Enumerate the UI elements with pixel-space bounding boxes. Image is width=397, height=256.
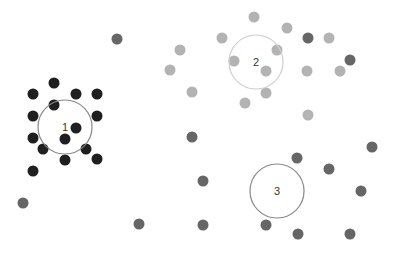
centroid-1: 1 bbox=[38, 100, 92, 154]
data-point bbox=[249, 12, 260, 23]
data-point bbox=[293, 229, 304, 240]
data-point bbox=[81, 144, 92, 155]
data-point bbox=[38, 144, 49, 155]
data-point bbox=[261, 88, 272, 99]
data-point bbox=[60, 134, 71, 145]
data-point bbox=[324, 33, 335, 44]
data-point bbox=[240, 98, 251, 109]
data-point bbox=[261, 66, 272, 77]
data-point bbox=[345, 55, 356, 66]
data-point bbox=[165, 65, 176, 76]
data-point bbox=[60, 155, 71, 166]
data-point bbox=[187, 132, 198, 143]
data-point bbox=[71, 89, 82, 100]
data-point bbox=[356, 186, 367, 197]
cluster-diagram: 123 bbox=[0, 0, 397, 256]
data-point bbox=[303, 110, 314, 121]
cluster-3 bbox=[18, 33, 378, 240]
data-point bbox=[345, 229, 356, 240]
data-point bbox=[303, 33, 314, 44]
data-point bbox=[92, 89, 103, 100]
data-points bbox=[18, 12, 378, 240]
data-point bbox=[261, 220, 272, 231]
data-point bbox=[28, 166, 39, 177]
data-point bbox=[28, 133, 39, 144]
data-point bbox=[18, 198, 29, 209]
data-point bbox=[92, 154, 103, 165]
data-point bbox=[28, 89, 39, 100]
data-point bbox=[229, 56, 240, 67]
data-point bbox=[302, 66, 313, 77]
data-point bbox=[335, 66, 346, 77]
data-point bbox=[198, 176, 209, 187]
data-point bbox=[134, 219, 145, 230]
centroid-label: 3 bbox=[274, 185, 280, 197]
data-point bbox=[175, 45, 186, 56]
data-point bbox=[112, 34, 123, 45]
data-point bbox=[367, 142, 378, 153]
data-point bbox=[187, 87, 198, 98]
data-point bbox=[282, 23, 293, 34]
data-point bbox=[28, 111, 39, 122]
centroid-label: 2 bbox=[253, 56, 259, 68]
data-point bbox=[198, 220, 209, 231]
data-point bbox=[324, 164, 335, 175]
data-point bbox=[71, 123, 82, 134]
data-point bbox=[92, 111, 103, 122]
centroid-3: 3 bbox=[250, 164, 304, 218]
data-point bbox=[292, 153, 303, 164]
data-point bbox=[217, 33, 228, 44]
centroid-label: 1 bbox=[62, 121, 68, 133]
data-point bbox=[49, 78, 60, 89]
